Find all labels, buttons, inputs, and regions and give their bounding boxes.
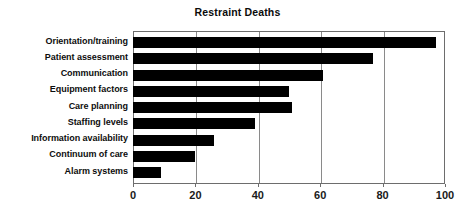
x-tick-mark-100: [445, 184, 446, 187]
chart-title: Restraint Deaths: [0, 6, 475, 18]
category-label: Information availability: [0, 133, 128, 143]
bar-row: [133, 35, 445, 51]
x-tick-mark-0: [133, 184, 134, 187]
bar: [133, 167, 161, 178]
x-tick-label: 60: [314, 189, 326, 201]
bar: [133, 53, 373, 64]
category-label: Staffing levels: [0, 117, 128, 127]
x-tick-mark-80: [383, 184, 384, 187]
x-tick-label: 20: [189, 189, 201, 201]
category-axis-labels: Orientation/trainingPatient assessmentCo…: [0, 31, 128, 184]
x-axis-tick-labels: 020406080100: [0, 189, 475, 207]
x-tick-label: 0: [130, 189, 136, 201]
category-label: Care planning: [0, 101, 128, 111]
bar-row: [133, 83, 445, 99]
bar-chart: Restraint Deaths Orientation/trainingPat…: [0, 0, 475, 219]
bar: [133, 151, 195, 162]
x-tick-mark-20: [195, 184, 196, 187]
bar: [133, 70, 323, 81]
category-label: Communication: [0, 68, 128, 78]
bar-row: [133, 100, 445, 116]
bars-layer: [133, 31, 445, 184]
x-tick-label: 100: [436, 189, 454, 201]
category-label: Alarm systems: [0, 166, 128, 176]
bar-row: [133, 51, 445, 67]
bar: [133, 37, 436, 48]
bar: [133, 86, 289, 97]
bar-row: [133, 67, 445, 83]
bar-row: [133, 132, 445, 148]
bar-row: [133, 165, 445, 181]
x-tick-label: 40: [252, 189, 264, 201]
category-label: Patient assessment: [0, 52, 128, 62]
bar: [133, 118, 255, 129]
x-tick-mark-60: [320, 184, 321, 187]
x-tick-mark-40: [258, 184, 259, 187]
bar-row: [133, 116, 445, 132]
bar: [133, 135, 214, 146]
x-tick-label: 80: [376, 189, 388, 201]
bar: [133, 102, 292, 113]
category-label: Orientation/training: [0, 36, 128, 46]
category-label: Continuum of care: [0, 149, 128, 159]
category-label: Equipment factors: [0, 84, 128, 94]
bar-row: [133, 148, 445, 164]
